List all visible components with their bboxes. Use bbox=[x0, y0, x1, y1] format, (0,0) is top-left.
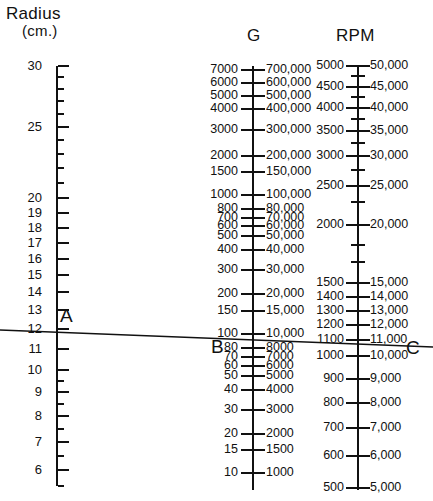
axis-tick-minor bbox=[351, 201, 365, 203]
rpm-tick-label-short: 2500 bbox=[0, 179, 344, 192]
axis-tick-major bbox=[346, 185, 370, 187]
axis-tick-major bbox=[346, 86, 370, 88]
point-label-a: A bbox=[60, 305, 73, 327]
axis-tick-minor bbox=[351, 261, 365, 263]
g-tick-label-full: 1000 bbox=[266, 466, 294, 479]
rpm-tick-label-full: 10,000 bbox=[370, 349, 408, 362]
axis-tick-minor bbox=[351, 244, 365, 246]
axis-tick-major bbox=[346, 130, 370, 132]
rpm-tick-label-short: 1300 bbox=[0, 304, 344, 317]
g-tick-label-full: 150,000 bbox=[266, 165, 311, 178]
axis-tick-major bbox=[241, 95, 265, 97]
rpm-tick-label-short: 2000 bbox=[0, 218, 344, 231]
axis-tick-major bbox=[241, 365, 265, 367]
rpm-tick-label-short: 600 bbox=[0, 449, 344, 462]
axis-tick-major bbox=[346, 324, 370, 326]
axis-tick-major bbox=[346, 310, 370, 312]
rpm-tick-label-full: 30,000 bbox=[370, 149, 408, 162]
axis-tick-major bbox=[346, 378, 370, 380]
rpm-tick-label-short: 5000 bbox=[0, 59, 344, 72]
rpm-tick-label-full: 12,000 bbox=[370, 318, 408, 331]
rpm-axis-title: RPM bbox=[336, 26, 375, 46]
rpm-tick-label-full: 35,000 bbox=[370, 124, 408, 137]
axis-tick-major bbox=[346, 455, 370, 457]
rpm-tick-label-short: 4000 bbox=[0, 101, 344, 114]
axis-tick-major bbox=[346, 282, 370, 284]
axis-tick-major bbox=[241, 389, 265, 391]
g-tick-label-full: 50,000 bbox=[266, 229, 304, 242]
rpm-tick-label-full: 9,000 bbox=[370, 372, 401, 385]
g-axis-title: G bbox=[247, 26, 261, 46]
rpm-tick-label-short: 1400 bbox=[0, 290, 344, 303]
rpm-tick-label-short: 500 bbox=[0, 481, 344, 494]
rpm-tick-label-short: 3000 bbox=[0, 149, 344, 162]
rpm-tick-label-full: 15,000 bbox=[370, 276, 408, 289]
rpm-tick-label-full: 6,000 bbox=[370, 449, 401, 462]
axis-tick-minor bbox=[58, 139, 64, 141]
axis-tick-major bbox=[346, 107, 370, 109]
axis-tick-major bbox=[346, 487, 370, 489]
axis-tick-major bbox=[241, 409, 265, 411]
rpm-tick-label-full: 8,000 bbox=[370, 396, 401, 409]
g-tick-label-short: 500 bbox=[0, 229, 238, 242]
radius-axis-unit: (cm.) bbox=[22, 22, 58, 39]
axis-tick-major bbox=[346, 155, 370, 157]
rpm-tick-label-short: 4500 bbox=[0, 80, 344, 93]
rpm-tick-label-short: 3500 bbox=[0, 124, 344, 137]
axis-tick-major bbox=[346, 355, 370, 357]
nomogram-chart: Radius (cm.) G RPM 302520191817161514131… bbox=[0, 0, 433, 501]
point-label-c: C bbox=[406, 337, 420, 359]
axis-tick-major bbox=[346, 224, 370, 226]
axis-tick-minor bbox=[351, 118, 365, 120]
axis-tick-major bbox=[346, 339, 370, 341]
rpm-tick-label-full: 50,000 bbox=[370, 59, 408, 72]
rpm-tick-label-full: 20,000 bbox=[370, 218, 408, 231]
point-label-b: B bbox=[211, 336, 224, 358]
g-tick-label-full: 40,000 bbox=[266, 243, 304, 256]
rpm-tick-label-full: 11,000 bbox=[370, 333, 407, 346]
g-tick-label-short: 10 bbox=[0, 466, 238, 479]
axis-tick-major bbox=[241, 472, 265, 474]
axis-tick-major bbox=[241, 269, 265, 271]
rpm-tick-label-short: 800 bbox=[0, 396, 344, 409]
rpm-tick-label-full: 7,000 bbox=[370, 421, 401, 434]
axis-tick-major bbox=[241, 194, 265, 196]
rpm-tick-label-short: 1200 bbox=[0, 318, 344, 331]
axis-tick-major bbox=[346, 296, 370, 298]
g-tick-label-full: 4000 bbox=[266, 383, 294, 396]
axis-tick-major bbox=[58, 258, 69, 260]
g-tick-label-short: 1500 bbox=[0, 165, 238, 178]
g-tick-label-short: 400 bbox=[0, 243, 238, 256]
g-tick-label-short: 300 bbox=[0, 263, 238, 276]
rpm-tick-label-full: 14,000 bbox=[370, 290, 408, 303]
g-tick-label-full: 30,000 bbox=[266, 263, 304, 276]
axis-tick-minor bbox=[351, 169, 365, 171]
axis-tick-minor bbox=[351, 142, 365, 144]
axis-tick-major bbox=[346, 427, 370, 429]
rpm-tick-label-full: 40,000 bbox=[370, 101, 408, 114]
axis-tick-major bbox=[346, 65, 370, 67]
rpm-tick-label-short: 1000 bbox=[0, 349, 344, 362]
axis-tick-major bbox=[241, 235, 265, 237]
g-tick-label-short: 40 bbox=[0, 383, 238, 396]
rpm-tick-label-short: 1500 bbox=[0, 276, 344, 289]
axis-tick-major bbox=[241, 171, 265, 173]
axis-tick-major bbox=[241, 208, 265, 210]
rpm-tick-label-full: 13,000 bbox=[370, 304, 408, 317]
rpm-tick-label-full: 5,000 bbox=[370, 481, 401, 494]
axis-tick-major bbox=[241, 249, 265, 251]
rpm-tick-label-full: 25,000 bbox=[370, 179, 408, 192]
axis-tick-major bbox=[346, 402, 370, 404]
rpm-tick-label-full: 45,000 bbox=[370, 80, 408, 93]
rpm-tick-label-short: 700 bbox=[0, 421, 344, 434]
radius-axis-title: Radius bbox=[6, 4, 61, 24]
axis-tick-minor bbox=[351, 75, 365, 77]
axis-tick-minor bbox=[351, 96, 365, 98]
rpm-tick-label-short: 1100 bbox=[0, 333, 344, 346]
rpm-tick-label-short: 900 bbox=[0, 372, 344, 385]
